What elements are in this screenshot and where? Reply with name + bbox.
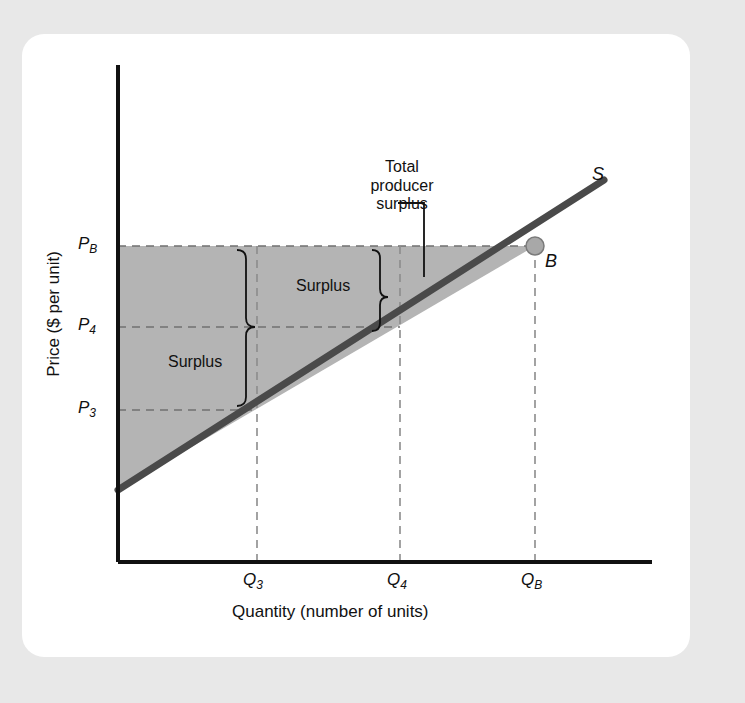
x-tick-q4-sub: 4 (400, 578, 407, 592)
total-surplus-line-3: surplus (352, 195, 452, 214)
x-axis-title: Quantity (number of units) (232, 602, 429, 622)
y-tick-p3: P3 (78, 398, 96, 420)
x-tick-q4: Q4 (387, 570, 407, 592)
point-b-label: B (545, 251, 557, 272)
y-tick-p4-sub: 4 (89, 323, 96, 337)
surplus-lower-label: Surplus (168, 353, 222, 372)
point-b-marker (526, 237, 544, 255)
x-tick-q3: Q3 (243, 570, 263, 592)
y-tick-pb-sub: B (89, 242, 97, 256)
y-tick-pb-text: P (78, 234, 89, 253)
y-tick-p3-sub: 3 (89, 406, 96, 420)
x-tick-qb: QB (521, 570, 542, 592)
x-tick-qb-text: Q (521, 570, 534, 589)
y-axis-title: Price ($ per unit) (44, 214, 64, 414)
x-tick-q3-text: Q (243, 570, 256, 589)
x-tick-q3-sub: 3 (256, 578, 263, 592)
total-surplus-line-2: producer (352, 177, 452, 196)
y-tick-p3-text: P (78, 398, 89, 417)
x-tick-q4-text: Q (387, 570, 400, 589)
total-producer-surplus-annotation: Total producer surplus (352, 158, 452, 214)
surplus-upper-label: Surplus (296, 277, 350, 296)
x-tick-qb-sub: B (534, 578, 542, 592)
y-tick-pb: PB (78, 234, 97, 256)
supply-curve-chart (0, 0, 745, 703)
supply-curve-label: S (592, 164, 604, 185)
total-surplus-line-1: Total (352, 158, 452, 177)
y-tick-p4: P4 (78, 315, 96, 337)
y-tick-p4-text: P (78, 315, 89, 334)
page-background: Quantity (number of units) Price ($ per … (0, 0, 745, 703)
